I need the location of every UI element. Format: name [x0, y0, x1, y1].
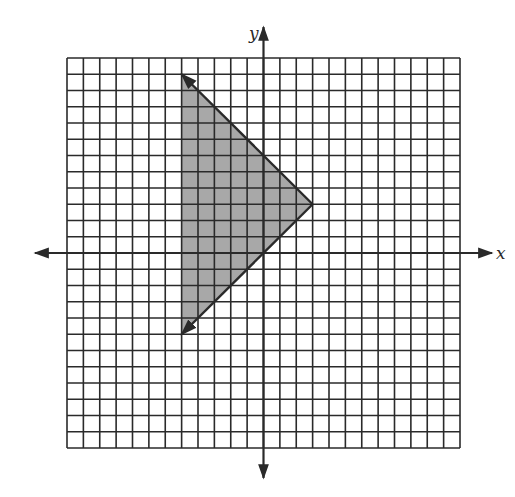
- x-axis-label: x: [496, 243, 506, 263]
- coordinate-graph: x y: [0, 0, 515, 497]
- y-axis-label: y: [248, 23, 259, 43]
